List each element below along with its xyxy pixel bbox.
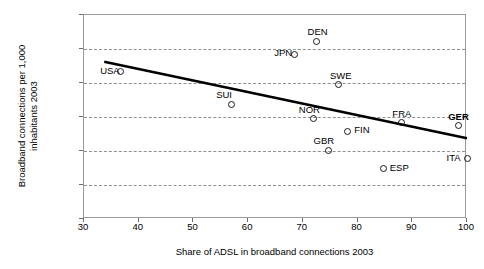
data-point[interactable] [455, 122, 462, 129]
scatter-chart: Broadband connections per 1,000 inhabita… [0, 0, 484, 269]
x-tick-label: 60 [227, 222, 267, 232]
data-point[interactable] [291, 51, 298, 58]
data-point-label: JPN [274, 48, 292, 58]
data-point-label: GER [448, 112, 469, 122]
x-axis-title: Share of ADSL in broadband connections 2… [83, 246, 466, 257]
data-point-label: USA [100, 66, 120, 76]
x-tick-label: 50 [172, 222, 212, 232]
data-point[interactable] [464, 155, 471, 162]
data-point-label: FRA [392, 109, 411, 119]
data-point-label: ESP [390, 163, 409, 173]
data-point-label: SUI [216, 90, 232, 100]
data-point[interactable] [325, 147, 332, 154]
x-tick-label: 90 [391, 222, 431, 232]
x-tick-label: 100 [446, 222, 484, 232]
data-point-label: GBR [314, 136, 335, 146]
x-tick-label: 40 [118, 222, 158, 232]
x-tick-label: 70 [282, 222, 322, 232]
data-point-label: DEN [308, 27, 328, 37]
data-point[interactable] [313, 38, 320, 45]
data-point-label: FIN [354, 125, 369, 135]
data-point-label: ITA [447, 153, 461, 163]
y-axis-title: Broadband connections per 1,000 inhabita… [16, 10, 40, 222]
x-tick-label: 30 [63, 222, 103, 232]
data-point-label: SWE [330, 71, 352, 81]
plot-area: USASUIJPNDENNORGBRSWEFINESPFRAGERITA [83, 14, 466, 218]
data-point[interactable] [228, 101, 235, 108]
x-tick-label: 80 [337, 222, 377, 232]
data-point-label: NOR [299, 105, 320, 115]
